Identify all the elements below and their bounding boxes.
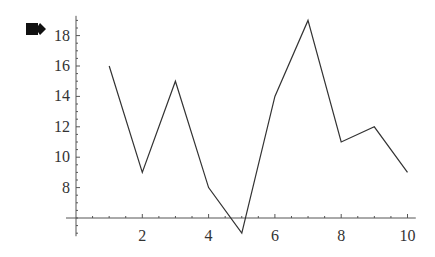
y-tick-label: 16 bbox=[54, 57, 70, 74]
x-tick-label: 8 bbox=[337, 227, 345, 244]
x-tick-label: 2 bbox=[138, 227, 146, 244]
x-tick-label: 4 bbox=[205, 227, 213, 244]
y-tick-label: 8 bbox=[62, 179, 70, 196]
data-line bbox=[109, 20, 407, 233]
x-tick-label: 6 bbox=[271, 227, 279, 244]
y-tick-label: 12 bbox=[54, 118, 70, 135]
y-tick-label: 10 bbox=[54, 148, 70, 165]
line-chart: 24681081012141618 bbox=[0, 0, 435, 257]
y-tick-label: 14 bbox=[54, 87, 70, 104]
y-tick-label: 18 bbox=[54, 27, 70, 44]
x-tick-label: 10 bbox=[400, 227, 416, 244]
